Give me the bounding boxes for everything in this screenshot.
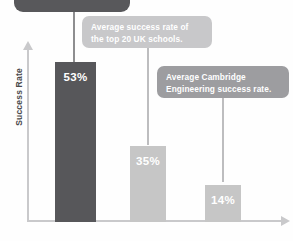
y-axis-line [27, 48, 29, 222]
y-axis-title: Success Rate [14, 65, 24, 129]
bar-item: 14% [205, 185, 241, 222]
bar-value-label: 53% [64, 71, 88, 83]
callout-box [14, 0, 130, 12]
bar-chart-figure: Success Rate 53% 35% 14% Average success… [0, 0, 293, 241]
callout-line: the top 20 UK schools. [91, 34, 203, 46]
callout-line: Average success rate of [91, 22, 203, 34]
callout-box: Average success rate of the top 20 UK sc… [82, 16, 212, 48]
bar-value-label: 35% [136, 155, 160, 167]
bar-item: 35% [130, 146, 166, 222]
x-axis-arrow-icon [281, 216, 290, 226]
callout-box: Average Cambridge Engineering success ra… [157, 66, 289, 98]
callout-connector-line [147, 47, 149, 145]
callout-connector-line [73, 10, 75, 62]
callout-line: Engineering success rate. [166, 84, 280, 96]
bar-value-label: 14% [211, 194, 235, 206]
callout-line: Average Cambridge [166, 72, 280, 84]
bar-item: 53% [55, 62, 96, 222]
y-axis-arrow-icon [23, 41, 33, 50]
callout-connector-line [222, 97, 224, 182]
